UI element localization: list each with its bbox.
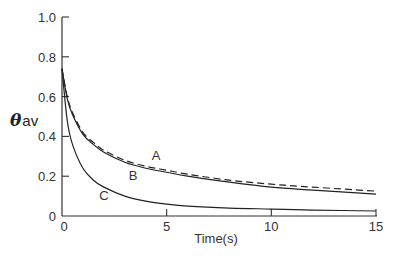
y-tick-label: 0.4 bbox=[38, 129, 56, 144]
curve-b bbox=[62, 69, 376, 194]
y-tick-label: 0.8 bbox=[38, 50, 56, 65]
curve-c bbox=[62, 69, 376, 211]
x-tick-label: 10 bbox=[264, 219, 278, 234]
y-tick-label: 0 bbox=[49, 209, 56, 224]
y-ticks: 00.20.40.60.81.0 bbox=[38, 10, 69, 224]
curve-a bbox=[62, 69, 376, 191]
y-tick-label: 0.2 bbox=[38, 169, 56, 184]
x-axis-label: Time(s) bbox=[194, 231, 238, 246]
x-tick-label: 15 bbox=[369, 219, 383, 234]
x-tick-label: 5 bbox=[163, 219, 170, 234]
y-axis-label-sub: av bbox=[22, 112, 38, 129]
y-tick-label: 1.0 bbox=[38, 10, 56, 25]
y-tick-label: 0.6 bbox=[38, 90, 56, 105]
line-chart: 00.20.40.60.81.0 051015 ABC θav Time(s) bbox=[0, 0, 395, 264]
y-axis-label-main: θ bbox=[10, 110, 22, 130]
curve-label-b: B bbox=[129, 168, 138, 183]
curves bbox=[62, 69, 376, 211]
curve-label-c: C bbox=[99, 188, 108, 203]
curve-labels: ABC bbox=[99, 148, 161, 203]
y-axis-label: θav bbox=[10, 110, 39, 130]
x-tick-label: 0 bbox=[60, 219, 67, 234]
curve-label-a: A bbox=[152, 148, 161, 163]
